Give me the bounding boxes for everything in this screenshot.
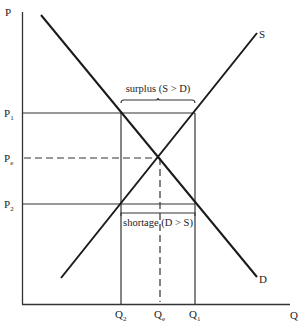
supply-curve-label: S xyxy=(259,28,265,40)
demand-curve-label: D xyxy=(259,273,267,285)
price-label-pe: Pe xyxy=(4,152,13,167)
x-axis-label: Q xyxy=(290,309,298,321)
svg-text:Q2: Q2 xyxy=(115,308,127,323)
q2-label-sub: 2 xyxy=(123,315,127,323)
quantity-label-q1: Q1 xyxy=(189,308,201,323)
svg-text:Qe: Qe xyxy=(154,308,165,323)
quantity-label-qe: Qe xyxy=(154,308,165,323)
surplus-label: surplus (S > D) xyxy=(126,83,191,95)
svg-text:Q1: Q1 xyxy=(189,308,201,323)
price-label-p1: P1 xyxy=(4,107,14,122)
shortage-label: shortage (D > S) xyxy=(123,217,193,229)
q2-label-main: Q xyxy=(115,308,123,320)
pe-label-sub: e xyxy=(10,159,13,167)
supply-demand-diagram: P Q S D surplus (S > D) shortage (D > S)… xyxy=(0,0,303,323)
svg-text:P2: P2 xyxy=(4,198,14,213)
quantity-label-q2: Q2 xyxy=(115,308,127,323)
demand-curve xyxy=(41,15,257,277)
price-label-p2: P2 xyxy=(4,198,14,213)
p2-label-sub: 2 xyxy=(10,205,14,213)
q1-label-main: Q xyxy=(189,308,197,320)
svg-text:Pe: Pe xyxy=(4,152,13,167)
surplus-bracket xyxy=(121,98,195,103)
svg-text:P1: P1 xyxy=(4,107,14,122)
p1-label-sub: 1 xyxy=(10,114,14,122)
y-axis-label: P xyxy=(5,6,11,18)
shortage-bracket xyxy=(121,213,195,216)
qe-label-main: Q xyxy=(154,308,162,320)
q1-label-sub: 1 xyxy=(197,315,201,323)
qe-label-sub: e xyxy=(162,315,165,323)
